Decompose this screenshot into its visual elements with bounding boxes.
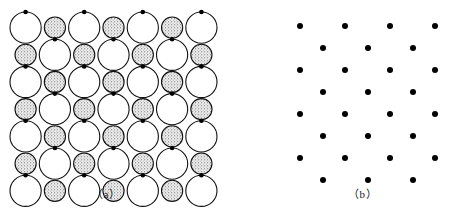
large-ion-circle [69,66,100,97]
small-ion-circle [162,126,183,147]
small-ion-circle [191,44,212,65]
small-ion-circle [132,44,153,65]
lattice-point-dot [170,37,175,42]
small-ion-circle [15,153,36,174]
lattice-point-dot [432,155,438,161]
large-ion-circle [157,148,188,179]
lattice-point-dot [23,173,28,178]
small-ion-circle [162,71,183,92]
lattice-point-dot [53,37,58,42]
lattice-point-dot [82,119,87,124]
lattice-point-dot [82,10,87,15]
lattice-point-dot [141,173,146,178]
large-ion-circle [39,39,70,70]
lattice-point-dot [23,64,28,69]
small-ion-circle [103,71,124,92]
lattice-point-dot [199,119,204,124]
large-ion-circle [98,148,129,179]
lattice-point-dot [111,146,116,151]
large-ion-circle [10,175,41,206]
lattice-point-dot [365,45,371,51]
large-ion-circle [186,175,217,206]
small-ion-circle [191,153,212,174]
lattice-point-dot [342,155,348,161]
large-ion-circle [10,12,41,43]
lattice-point-dot [111,37,116,42]
small-ion-circle [103,126,124,147]
large-ion-circle [127,66,158,97]
small-ion-circle [74,153,95,174]
large-ion-circle [186,12,217,43]
lattice-point-dot [432,67,438,73]
large-ion-circle [157,39,188,70]
lattice-point-dot [199,64,204,69]
small-ion-circle [132,99,153,120]
lattice-point-dot [342,23,348,29]
large-ion-circle [39,94,70,125]
lattice-point-dot [432,23,438,29]
small-ion-circle [103,17,124,38]
panel-b-svg [227,0,454,211]
small-ion-circle [191,99,212,120]
small-ion-circle [15,44,36,65]
large-ion-circle [39,148,70,179]
lattice-point-dot [410,177,416,183]
crystal-structure-figure: （a） （b） [0,0,454,211]
lattice-point-dot [320,133,326,139]
lattice-point-dot [342,67,348,73]
lattice-point-dot [410,45,416,51]
lattice-point-dot [297,23,303,29]
large-ion-circle [98,39,129,70]
small-ion-circle [15,99,36,120]
lattice-point-dot [387,23,393,29]
lattice-point-dot [365,89,371,95]
large-ion-circle [98,94,129,125]
lattice-point-dot [410,133,416,139]
lattice-point-dot [170,146,175,151]
panel-a-structure [0,0,227,211]
lattice-point-dot [387,155,393,161]
large-ion-circle [157,94,188,125]
lattice-point-dot [53,146,58,151]
lattice-point-dot [320,177,326,183]
lattice-point-dot [297,111,303,117]
panel-b-lattice [227,0,454,211]
lattice-point-dot [111,91,116,96]
lattice-point-dot [23,119,28,124]
large-ion-circle [127,12,158,43]
large-ion-circle [69,121,100,152]
lattice-point-dot [387,111,393,117]
lattice-point-dot [432,111,438,117]
lattice-points-layer [297,23,438,183]
panel-a-caption: （a） [92,185,120,201]
large-ion-circle [127,175,158,206]
panel-a-svg [0,0,227,211]
large-ion-circle [69,12,100,43]
lattice-point-dot [199,10,204,15]
panel-b-caption: （b） [348,185,377,201]
small-ion-circle [44,126,65,147]
large-ion-circle [10,66,41,97]
lattice-point-dot [141,119,146,124]
lattice-point-dot [387,67,393,73]
small-ion-circle [44,71,65,92]
lattice-point-dot [199,173,204,178]
small-ion-circle [132,153,153,174]
lattice-point-dot [82,64,87,69]
small-ion-circle [44,17,65,38]
lattice-point-dot [82,173,87,178]
lattice-point-dot [365,133,371,139]
lattice-point-dot [320,45,326,51]
large-ion-circle [127,121,158,152]
lattice-point-dot [141,64,146,69]
small-ion-circle [74,99,95,120]
lattice-point-dot [141,10,146,15]
lattice-point-dot [365,177,371,183]
lattice-point-dot [297,155,303,161]
small-ion-circle [162,17,183,38]
small-ion-circle [74,44,95,65]
lattice-point-dot [23,10,28,15]
large-ion-circle [186,66,217,97]
large-ion-circle [10,121,41,152]
lattice-point-dot [410,89,416,95]
